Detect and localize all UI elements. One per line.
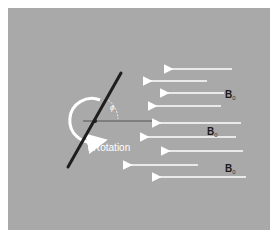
rotation-label: Rotation xyxy=(93,142,130,153)
field-subscript: 0 xyxy=(232,169,235,175)
field-label-b0: B0 xyxy=(225,163,236,175)
diagram-canvas xyxy=(0,0,279,240)
pivot-point xyxy=(93,119,97,123)
angle-phi-label: ϕ xyxy=(110,103,114,112)
magnetic-field-arrows xyxy=(131,69,246,177)
field-subscript: 0 xyxy=(232,95,235,101)
field-subscript: 0 xyxy=(214,132,217,138)
field-label-b0: B0 xyxy=(225,89,236,101)
field-label-b0: B0 xyxy=(207,126,218,138)
